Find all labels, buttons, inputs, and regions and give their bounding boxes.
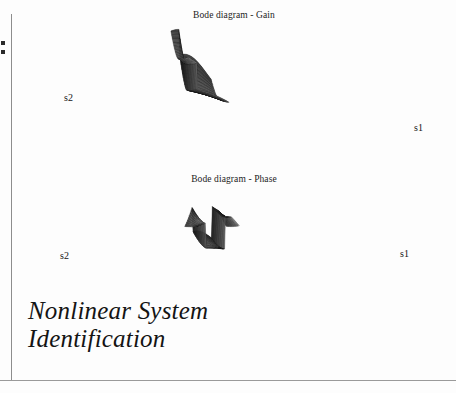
scan-speck-bottom — [1, 50, 5, 54]
scanned-page: Bode diagram - Gain s2 s1 Bode diagram -… — [0, 0, 456, 393]
bode-gain-surface — [12, 4, 456, 174]
scan-speck-top — [1, 41, 5, 45]
bode-gain-plot: Bode diagram - Gain s2 s1 — [12, 4, 456, 174]
page-title-line-1: Nonlinear System — [28, 297, 208, 324]
bode-phase-surface — [12, 172, 456, 290]
bode-phase-axis-label-s1: s1 — [400, 248, 409, 259]
page-title-line-2: Identification — [28, 325, 358, 353]
bode-gain-axis-label-s2: s2 — [64, 92, 73, 103]
bode-gain-axis-label-s1: s1 — [414, 122, 423, 133]
page-title: Nonlinear System Identification — [28, 297, 358, 353]
page-bottom-rule — [0, 380, 456, 381]
bode-phase-axis-label-s2: s2 — [60, 250, 69, 261]
bode-phase-plot: Bode diagram - Phase s2 s1 — [12, 172, 456, 290]
